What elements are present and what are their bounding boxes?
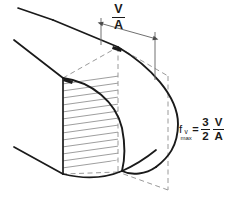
dim-line-va [103,24,153,38]
fraction-denominator-a: A [112,17,125,32]
hidden-edge-bottom-left [63,172,118,174]
equation-f-letter: f [179,123,182,135]
equation-subscript-max: max [181,135,192,141]
fraction-three-halves: 3 2 [201,117,210,142]
equation-symbol-f: f v max [179,124,183,136]
max-shear-stress-equation: f v max = 3 2 V A [179,117,224,142]
dimension-va-group [101,18,155,80]
fraction-numerator-three: 3 [201,117,210,129]
dimension-va-label: V A [112,3,125,31]
beam-edge-bottom [14,147,63,174]
shear-stress-diagram: V A f v max = 3 2 V A [0,0,248,207]
shear-stress-curve-group [63,47,178,174]
fraction-v-over-a-equation: V A [213,117,224,142]
beam-edge-top-far [53,20,118,47]
parabola-outer-profile [118,47,178,167]
fraction-denominator-two: 2 [201,129,210,142]
equation-numerator-v: V [213,117,224,129]
beam-edge-top-far-ext [18,8,53,20]
hidden-edge-bottom-right [118,172,168,190]
hidden-edge-top-back [63,47,118,78]
beam-outline-group [14,8,156,177]
equation-denominator-a: A [213,129,224,142]
fraction-v-over-a: V A [112,3,125,31]
fraction-numerator-v: V [112,3,124,17]
beam-edge-top-near [14,40,63,78]
diagram-canvas [0,0,248,207]
corner-tick-group [63,46,122,84]
section-hatching-group [55,75,126,176]
